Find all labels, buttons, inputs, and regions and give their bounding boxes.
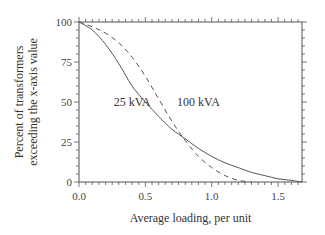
series-line-100-kva	[79, 22, 252, 182]
x-tick-label: 1.0	[205, 190, 219, 202]
x-tick-label: 0.0	[72, 190, 86, 202]
series-label: 100 kVA	[177, 95, 220, 109]
y-tick-label: 0	[67, 176, 73, 188]
line-chart: 0.00.51.01.5025507510025 kVA100 kVAAvera…	[0, 0, 325, 235]
y-tick-label: 25	[61, 136, 73, 148]
y-axis-title: exceeding the x-axis value	[26, 38, 40, 166]
y-axis-title: Percent of transformers	[12, 45, 26, 158]
x-axis-title: Average loading, per unit	[130, 211, 252, 225]
series-label: 25 kVA	[114, 95, 151, 109]
x-tick-label: 0.5	[138, 190, 152, 202]
y-tick-label: 75	[61, 56, 73, 68]
y-tick-label: 50	[61, 96, 73, 108]
y-tick-label: 100	[56, 16, 73, 28]
x-tick-label: 1.5	[271, 190, 285, 202]
